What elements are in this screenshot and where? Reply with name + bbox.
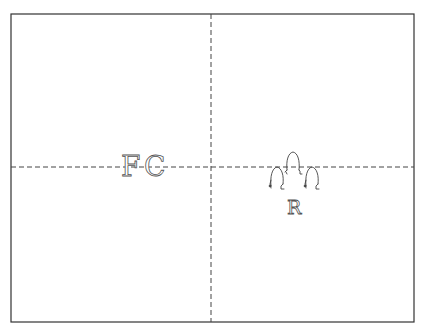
figure-right-icon [304,167,319,189]
figure-left-icon [269,167,284,189]
outer-frame [11,14,414,322]
label-r: R [287,198,301,217]
figure-center-icon [285,152,302,174]
label-c: C [144,153,165,181]
label-f: F [121,153,140,181]
diagram-canvas [0,0,423,334]
